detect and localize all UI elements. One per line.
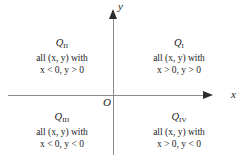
quadrant-3-block: QIII all (x, y) with x < 0, y < 0 [16,110,108,150]
quadrant-3-condition-line1: all (x, y) with [16,126,108,138]
quadrant-2-condition-line1: all (x, y) with [16,52,108,64]
quadrant-1-condition-line2: x > 0, y > 0 [131,64,227,76]
quadrant-2-condition-line2: x < 0, y > 0 [16,64,108,76]
quadrant-4-subscript: IV [179,116,187,124]
quadrant-4-name: QIV [131,110,227,125]
quadrant-3-condition-line2: x < 0, y < 0 [16,138,108,150]
quadrant-4-block: QIV all (x, y) with x > 0, y < 0 [131,110,227,150]
quadrant-1-symbol: Q [174,37,182,48]
quadrant-2-block: QII all (x, y) with x < 0, y > 0 [16,36,108,76]
quadrant-2-subscript: II [63,42,68,50]
x-axis-label: x [231,89,236,100]
quadrant-3-name: QIII [16,110,108,125]
quadrant-3-subscript: III [62,116,69,124]
y-axis-arrow-icon [109,9,117,19]
origin-label: O [103,97,111,108]
quadrant-4-condition-line1: all (x, y) with [131,126,227,138]
y-axis-label: y [118,1,123,12]
y-axis-line [113,16,114,155]
quadrant-3-symbol: Q [55,111,63,122]
quadrant-2-name: QII [16,36,108,51]
quadrant-1-name: QI [131,36,227,51]
quadrant-1-block: QI all (x, y) with x > 0, y > 0 [131,36,227,76]
quadrant-4-symbol: Q [171,111,179,122]
quadrant-4-condition-line2: x > 0, y < 0 [131,138,227,150]
x-axis-arrow-icon [203,91,213,99]
quadrant-diagram: y x O QII all (x, y) with x < 0, y > 0 Q… [0,0,244,161]
quadrant-1-subscript: I [182,42,184,50]
quadrant-1-condition-line1: all (x, y) with [131,52,227,64]
